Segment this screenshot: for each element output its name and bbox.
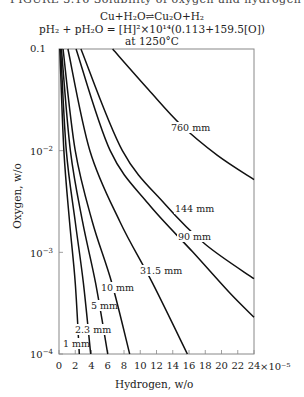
y-tick-exp: −4 — [43, 348, 53, 356]
curve-144-mm — [81, 49, 254, 279]
y-tick-label-1e-4: 10−4 — [30, 348, 53, 360]
chart-plot: 1 mm2.3 mm5 mm10 mm31.5 mm90 mm144 mm760… — [0, 0, 304, 397]
x-tick-label: 12 — [150, 360, 163, 371]
curve-label: 5 mm — [91, 300, 118, 311]
y-tick-label-0.1: 0.1 — [30, 43, 46, 54]
x-tick-label: 24 — [248, 360, 261, 371]
x-axis-label: Hydrogen, w/o — [115, 378, 193, 390]
y-tick-label-1e-2: 10−2 — [30, 145, 53, 157]
x-tick-label: 22 — [231, 360, 244, 371]
x-tick-label: 14 — [166, 360, 179, 371]
curve-label: 31.5 mm — [140, 265, 182, 276]
axis-ticks — [59, 49, 254, 354]
x-tick-label: 0 — [56, 360, 62, 371]
curve-label: 1 mm — [63, 338, 90, 349]
x-tick-label: 20 — [215, 360, 228, 371]
x-tick-label: 8 — [121, 360, 127, 371]
curves — [60, 49, 254, 354]
y-tick-exp: −2 — [43, 145, 53, 153]
curve-label: 760 mm — [171, 122, 210, 133]
curve-label: 144 mm — [175, 203, 214, 214]
x-tick-label: 16 — [183, 360, 196, 371]
curve-label: 10 mm — [101, 282, 134, 293]
x-axis-multiplier: ×10⁻⁵ — [260, 361, 290, 372]
plot-frame — [59, 49, 254, 354]
y-tick-label-1e-3: 10−3 — [30, 247, 53, 259]
y-tick-base: 10 — [30, 146, 43, 157]
y-axis-label: Oxygen, w/o — [11, 163, 23, 229]
x-tick-label: 6 — [105, 360, 111, 371]
x-tick-labels: 024681012141618202224 — [56, 360, 261, 371]
x-tick-label: 2 — [72, 360, 78, 371]
y-tick-exp: −3 — [43, 247, 53, 255]
y-tick-base: 10 — [30, 248, 43, 259]
curve-760-mm — [113, 49, 254, 180]
x-tick-label: 4 — [88, 360, 94, 371]
x-tick-label: 10 — [134, 360, 147, 371]
curve-label: 2.3 mm — [75, 324, 111, 335]
curve-label: 90 mm — [178, 231, 211, 242]
y-tick-base: 10 — [30, 349, 43, 360]
x-tick-label: 18 — [199, 360, 212, 371]
